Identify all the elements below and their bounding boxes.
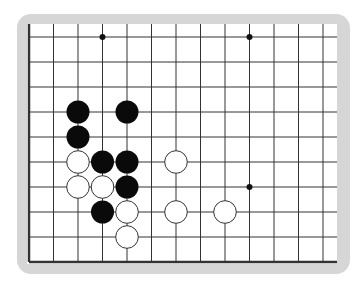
white-stone[interactable] <box>67 151 90 174</box>
black-stone[interactable] <box>116 101 139 124</box>
white-stone[interactable] <box>165 151 188 174</box>
black-stone[interactable] <box>91 201 114 224</box>
board-grid[interactable] <box>27 24 337 264</box>
hoshi-point-icon <box>247 34 253 40</box>
black-stone[interactable] <box>67 126 90 149</box>
white-stone[interactable] <box>67 176 90 199</box>
white-stone[interactable] <box>116 201 139 224</box>
black-stone[interactable] <box>116 151 139 174</box>
white-stone[interactable] <box>116 226 139 249</box>
go-board[interactable] <box>27 24 337 264</box>
black-stone[interactable] <box>116 176 139 199</box>
white-stone[interactable] <box>214 201 237 224</box>
hoshi-point-icon <box>247 184 253 190</box>
hoshi-point-icon <box>100 34 106 40</box>
white-stone[interactable] <box>91 176 114 199</box>
black-stone[interactable] <box>91 151 114 174</box>
black-stone[interactable] <box>67 101 90 124</box>
white-stone[interactable] <box>165 201 188 224</box>
